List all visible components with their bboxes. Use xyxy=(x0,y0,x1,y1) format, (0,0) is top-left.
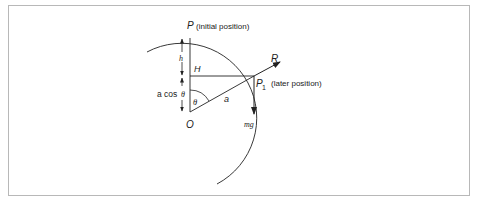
label-h-upper: H xyxy=(194,64,201,74)
label-theta: θ xyxy=(193,97,197,107)
label-a: a xyxy=(224,94,229,104)
sphere-particle-diagram: P (initial position) R P 1 (later positi… xyxy=(0,0,479,203)
label-h-lower: h xyxy=(179,54,183,63)
label-p1-sub: 1 xyxy=(262,84,266,91)
label-a-cos-theta: θ xyxy=(181,90,185,99)
label-p: P xyxy=(187,20,194,31)
label-mg: mg xyxy=(244,120,254,129)
sphere-arc xyxy=(147,43,257,184)
label-p1-note: (later position) xyxy=(271,79,322,88)
label-a-cos: a cos xyxy=(157,89,177,99)
reaction-arrow-r xyxy=(254,62,280,76)
radius-a-line xyxy=(190,76,254,112)
label-o: O xyxy=(186,119,194,130)
label-r: R xyxy=(271,53,278,64)
label-p-note: (initial position) xyxy=(196,22,250,31)
